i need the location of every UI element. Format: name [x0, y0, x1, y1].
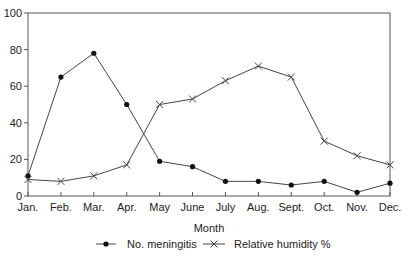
x-marker-icon — [321, 138, 328, 145]
dot-marker-icon — [103, 241, 108, 246]
dot-marker-icon — [289, 182, 294, 187]
dot-marker-icon — [387, 181, 392, 186]
dot-marker-icon — [190, 164, 195, 169]
x-marker-icon — [354, 152, 361, 159]
series-line — [28, 66, 390, 181]
y-tick-label: 60 — [10, 80, 22, 92]
legend-item-humidity: Relative humidity % — [203, 238, 331, 250]
x-tick-label: June — [181, 201, 205, 213]
dot-marker-icon — [223, 179, 228, 184]
y-tick-label: 20 — [10, 153, 22, 165]
x-tick-label: Dec. — [379, 201, 402, 213]
x-marker-icon — [288, 74, 295, 81]
x-tick-label: Aug. — [247, 201, 270, 213]
legend-item-meningitis: No. meningitis — [96, 238, 197, 250]
x-axis: Jan.Feb.Mar.Apr.MayJuneJulyAug.Sept.Oct.… — [18, 192, 402, 213]
x-tick-label: Nov. — [346, 201, 368, 213]
legend: No. meningitisRelative humidity % — [96, 238, 331, 250]
dot-marker-icon — [58, 74, 63, 79]
dot-marker-icon — [91, 51, 96, 56]
y-tick-label: 40 — [10, 117, 22, 129]
x-tick-label: Apr. — [117, 201, 137, 213]
series-humidity — [25, 63, 394, 185]
y-axis: 020406080100 — [4, 7, 28, 202]
plot-frame — [28, 13, 390, 196]
series-layer — [25, 51, 394, 195]
dot-marker-icon — [124, 102, 129, 107]
legend-label: Relative humidity % — [234, 238, 331, 250]
y-tick-label: 100 — [4, 7, 22, 19]
x-tick-label: Oct. — [314, 201, 334, 213]
legend-label: No. meningitis — [127, 238, 197, 250]
x-marker-icon — [255, 63, 262, 70]
x-axis-title: Month — [194, 222, 225, 234]
dot-marker-icon — [354, 190, 359, 195]
line-chart: 020406080100 Jan.Feb.Mar.Apr.MayJuneJuly… — [0, 0, 402, 263]
series-line — [28, 53, 390, 192]
x-marker-icon — [222, 77, 229, 84]
x-marker-icon — [123, 161, 130, 168]
x-tick-label: Feb. — [50, 201, 72, 213]
x-tick-label: Sept. — [278, 201, 304, 213]
x-tick-label: Jan. — [18, 201, 39, 213]
dot-marker-icon — [157, 159, 162, 164]
dot-marker-icon — [322, 179, 327, 184]
x-tick-label: Mar. — [83, 201, 104, 213]
dot-marker-icon — [256, 179, 261, 184]
x-tick-label: July — [216, 201, 236, 213]
series-meningitis — [25, 51, 392, 195]
x-tick-label: May — [149, 201, 170, 213]
y-tick-label: 80 — [10, 44, 22, 56]
